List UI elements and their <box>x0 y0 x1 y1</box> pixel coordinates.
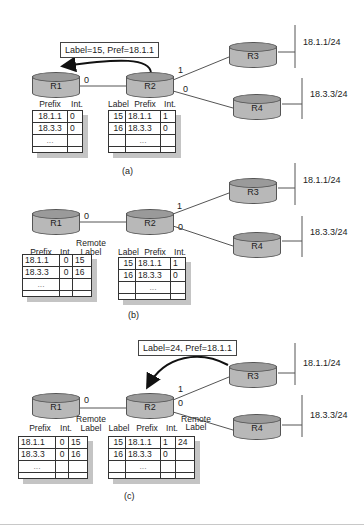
cell-int <box>56 473 69 479</box>
router-r4-a[interactable]: R4 <box>233 94 281 120</box>
label-message-c: Label=24, Pref=18.1.1 <box>138 340 237 356</box>
cell-int <box>161 147 176 153</box>
router-r3-c[interactable]: R3 <box>229 362 277 388</box>
table-row <box>23 291 92 297</box>
cell-prefix: 18.3.3 <box>33 123 68 135</box>
interface-label: 0 <box>183 84 188 94</box>
router-name: R4 <box>233 103 281 113</box>
cell-int <box>68 135 83 147</box>
col-int: Int. <box>58 423 74 433</box>
cell-label <box>119 294 136 300</box>
cell-remote-label: 16 <box>69 449 88 461</box>
router-r2-b[interactable]: R2 <box>126 209 174 235</box>
table-row: 18.3.30 <box>33 123 83 135</box>
table-row: 1518.1.11 <box>109 111 176 123</box>
cell-label: 16 <box>119 270 136 282</box>
cell-prefix <box>19 473 56 479</box>
cell-prefix: 18.1.1 <box>126 437 161 449</box>
r2-routing-table-a: 1518.1.11 1618.3.30 ... <box>108 110 176 153</box>
cell-remote-label <box>176 449 195 461</box>
cell-prefix: 18.3.3 <box>126 449 161 461</box>
cell-int: 1 <box>161 437 176 449</box>
cell-int: 0 <box>68 111 83 123</box>
table-row: 1618.3.30 <box>119 270 186 282</box>
router-r4-c[interactable]: R4 <box>233 414 281 440</box>
cell-prefix: 18.1.1 <box>19 437 56 449</box>
cell-int: 1 <box>161 111 176 123</box>
caption-b: (b) <box>128 310 139 320</box>
r1-table-header: Prefix Int. <box>32 99 86 109</box>
cell-remote-label: 15 <box>69 437 88 449</box>
cell-int: 0 <box>60 255 73 267</box>
router-r4-b[interactable]: R4 <box>233 232 281 258</box>
cell-label <box>109 135 126 147</box>
interface-label: 0 <box>178 398 183 408</box>
cell-prefix: 18.1.1 <box>126 111 161 123</box>
cell-int: 0 <box>161 123 176 135</box>
cell-prefix: 18.3.3 <box>19 449 56 461</box>
table-row: 18.1.1015 <box>23 255 92 267</box>
interface-label: 0 <box>178 222 183 232</box>
network-label: 18.1.1/24 <box>303 37 341 47</box>
table-row <box>33 147 83 153</box>
cell-int <box>171 294 186 300</box>
cell-int <box>60 279 73 291</box>
col-prefix: Prefix <box>140 247 170 257</box>
cell-remote-label <box>176 461 195 473</box>
cell-remote-label <box>69 473 88 479</box>
cell-remote-label: 15 <box>73 255 92 267</box>
cell-int <box>56 461 69 473</box>
router-r3-a[interactable]: R3 <box>229 42 277 68</box>
cell-prefix: ... <box>23 279 60 291</box>
interface-label: 0 <box>84 395 89 405</box>
table-row: ... <box>33 135 83 147</box>
cell-prefix: ... <box>33 135 68 147</box>
cell-int <box>161 473 176 479</box>
router-name: R1 <box>32 81 80 91</box>
cell-int: 0 <box>56 449 69 461</box>
cell-int <box>171 282 186 294</box>
cell-prefix: ... <box>136 282 171 294</box>
cell-prefix <box>136 294 171 300</box>
cell-int <box>68 147 83 153</box>
router-r1-a[interactable]: R1 <box>32 72 80 98</box>
col-prefix: Prefix <box>132 423 162 433</box>
router-r2-a[interactable]: R2 <box>126 72 174 98</box>
cell-label: 15 <box>109 437 126 449</box>
table-row: 1618.3.30 <box>109 123 176 135</box>
col-int: Int. <box>164 423 180 433</box>
table-row: ... <box>119 282 186 294</box>
cell-int: 0 <box>161 449 176 461</box>
r2-table-header: Label Prefix Int. <box>118 247 188 257</box>
cell-label <box>119 282 136 294</box>
cell-int: 1 <box>171 258 186 270</box>
cell-prefix: ... <box>19 461 56 473</box>
col-remote-label: Label <box>76 423 106 433</box>
router-name: R2 <box>126 402 174 412</box>
table-row: 18.1.1015 <box>19 437 88 449</box>
cell-int: 0 <box>56 437 69 449</box>
label-message-a: Label=15, Pref=18.1.1 <box>60 42 159 58</box>
cell-remote-label <box>73 279 92 291</box>
col-label: Label <box>108 99 128 109</box>
router-r1-b[interactable]: R1 <box>32 209 80 235</box>
cell-prefix: 18.1.1 <box>136 258 171 270</box>
cell-int: 0 <box>171 270 186 282</box>
router-r3-b[interactable]: R3 <box>229 178 277 204</box>
cell-prefix: ... <box>126 135 161 147</box>
r1-routing-table-b: 18.1.1015 18.3.3016 ... <box>22 254 92 297</box>
col-label: Label <box>118 247 138 257</box>
cell-int <box>60 291 73 297</box>
cell-label: 15 <box>109 111 126 123</box>
router-name: R3 <box>229 187 277 197</box>
router-name: R3 <box>229 51 277 61</box>
r2-routing-table-c: 1518.1.1124 1618.3.30 ... <box>108 436 195 479</box>
cell-label <box>109 461 126 473</box>
r2-routing-table-b: 1518.1.11 1618.3.30 ... <box>118 257 186 300</box>
cell-int <box>161 135 176 147</box>
table-row: 18.3.3016 <box>23 267 92 279</box>
col-prefix: Prefix <box>24 423 56 433</box>
cell-label: 16 <box>109 449 126 461</box>
r2-table-header: Label Prefix Int. <box>108 99 178 109</box>
table-row: ... <box>109 135 176 147</box>
